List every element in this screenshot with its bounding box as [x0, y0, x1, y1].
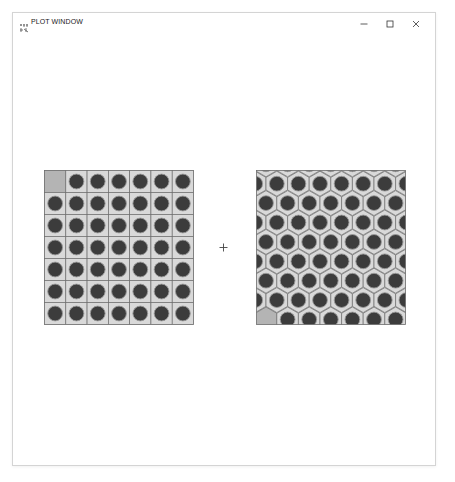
fuel-pin	[313, 254, 328, 269]
fuel-pin	[90, 196, 105, 211]
fuel-pin	[154, 262, 169, 277]
fuel-pin	[313, 293, 328, 308]
close-icon	[412, 20, 420, 28]
fuel-pin	[269, 215, 284, 230]
fuel-pin	[133, 240, 148, 255]
fuel-pin	[69, 240, 84, 255]
fuel-pin	[154, 284, 169, 299]
fuel-pin	[154, 174, 169, 189]
fuel-pin	[154, 196, 169, 211]
fuel-pin	[345, 273, 360, 288]
fuel-pin	[48, 240, 63, 255]
fuel-pin	[69, 174, 84, 189]
fuel-pin	[377, 215, 392, 230]
minimize-icon	[360, 20, 368, 28]
fuel-pin	[345, 312, 360, 325]
fuel-pin	[154, 240, 169, 255]
fuel-pin	[90, 262, 105, 277]
fuel-pin	[302, 312, 317, 325]
fuel-pin	[69, 196, 84, 211]
fuel-pin	[291, 254, 306, 269]
fuel-pin	[291, 293, 306, 308]
fuel-pin	[334, 215, 349, 230]
fuel-pin	[48, 284, 63, 299]
fuel-pin	[291, 215, 306, 230]
hexagonal-lattice-plot	[256, 170, 406, 325]
fuel-pin	[280, 196, 295, 211]
fuel-pin	[313, 176, 328, 191]
fuel-pin	[48, 262, 63, 277]
fuel-pin	[323, 273, 338, 288]
fuel-pin	[48, 196, 63, 211]
center-plus-marker	[219, 243, 228, 252]
fuel-pin	[133, 306, 148, 321]
fuel-pin	[175, 174, 190, 189]
fuel-pin	[356, 176, 371, 191]
close-button[interactable]	[404, 16, 428, 32]
fuel-pin	[133, 196, 148, 211]
fuel-pin	[269, 293, 284, 308]
fuel-pin	[175, 196, 190, 211]
fuel-pin	[133, 284, 148, 299]
fuel-pin	[133, 218, 148, 233]
fuel-pin	[90, 306, 105, 321]
fuel-pin	[112, 240, 127, 255]
fuel-pin	[90, 218, 105, 233]
fuel-pin	[48, 306, 63, 321]
window-title: PLOT WINDOW	[31, 18, 83, 25]
fuel-pin	[112, 306, 127, 321]
fuel-pin	[175, 262, 190, 277]
fuel-pin	[69, 306, 84, 321]
fuel-pin	[280, 235, 295, 250]
fuel-pin	[345, 235, 360, 250]
fuel-pin	[323, 235, 338, 250]
square-lattice-plot	[44, 170, 194, 325]
fuel-pin	[367, 312, 382, 325]
title-bar[interactable]: PLOT WINDOW	[13, 13, 435, 35]
lattice-cell	[45, 171, 66, 193]
fuel-pin	[302, 273, 317, 288]
fuel-pin	[133, 262, 148, 277]
fuel-pin	[323, 312, 338, 325]
fuel-pin	[269, 254, 284, 269]
fuel-pin	[388, 235, 403, 250]
fuel-pin	[90, 240, 105, 255]
fuel-pin	[175, 240, 190, 255]
maximize-button[interactable]	[378, 16, 402, 32]
fuel-pin	[175, 306, 190, 321]
fuel-pin	[302, 235, 317, 250]
fuel-pin	[112, 218, 127, 233]
fuel-pin	[154, 218, 169, 233]
plot-app-icon	[19, 19, 29, 29]
fuel-pin	[112, 284, 127, 299]
fuel-pin	[377, 254, 392, 269]
fuel-pin	[334, 176, 349, 191]
fuel-pin	[175, 218, 190, 233]
fuel-pin	[259, 196, 274, 211]
fuel-pin	[313, 215, 328, 230]
fuel-pin	[112, 262, 127, 277]
fuel-pin	[48, 218, 63, 233]
fuel-pin	[90, 284, 105, 299]
fuel-pin	[112, 196, 127, 211]
fuel-pin	[377, 293, 392, 308]
fuel-pin	[388, 196, 403, 211]
minimize-button[interactable]	[352, 16, 376, 32]
fuel-pin	[69, 262, 84, 277]
maximize-icon	[386, 20, 394, 28]
fuel-pin	[367, 273, 382, 288]
fuel-pin	[259, 235, 274, 250]
fuel-pin	[69, 218, 84, 233]
fuel-pin	[323, 196, 338, 211]
fuel-pin	[269, 176, 284, 191]
fuel-pin	[302, 196, 317, 211]
fuel-pin	[356, 215, 371, 230]
fuel-pin	[345, 196, 360, 211]
fuel-pin	[69, 284, 84, 299]
fuel-pin	[133, 174, 148, 189]
fuel-pin	[334, 254, 349, 269]
fuel-pin	[154, 306, 169, 321]
fuel-pin	[90, 174, 105, 189]
fuel-pin	[334, 293, 349, 308]
fuel-pin	[367, 196, 382, 211]
